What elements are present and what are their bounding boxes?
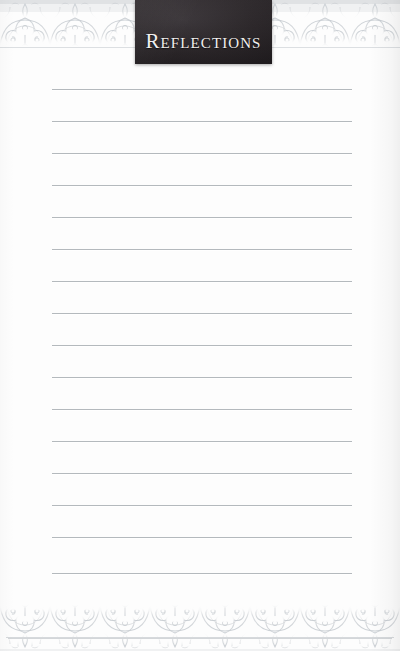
ruled-lines-area	[0, 0, 400, 651]
writing-rule-line	[52, 573, 352, 574]
writing-rule-line	[52, 473, 352, 474]
writing-rule-line	[52, 377, 352, 378]
title-banner: Reflections	[135, 0, 272, 64]
writing-rule-line	[52, 153, 352, 154]
writing-rule-line	[52, 441, 352, 442]
page-title: Reflections	[145, 31, 261, 64]
journal-page: Reflections	[0, 0, 400, 651]
writing-rule-line	[52, 185, 352, 186]
writing-rule-line	[52, 121, 352, 122]
writing-rule-line	[52, 313, 352, 314]
writing-rule-line	[52, 345, 352, 346]
writing-rule-line	[52, 281, 352, 282]
writing-rule-line	[52, 89, 352, 90]
writing-rule-line	[52, 537, 352, 538]
writing-rule-line	[52, 505, 352, 506]
writing-rule-line	[52, 249, 352, 250]
writing-rule-line	[52, 217, 352, 218]
writing-rule-line	[52, 409, 352, 410]
